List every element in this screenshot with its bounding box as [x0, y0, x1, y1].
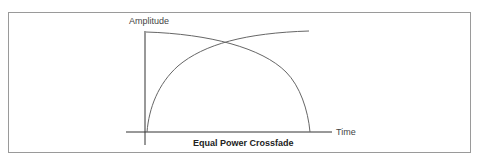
fade-out-curve	[146, 32, 310, 132]
fade-in-curve	[147, 31, 309, 132]
y-axis-label: Amplitude	[129, 16, 169, 26]
diagram-title: Equal Power Crossfade	[193, 138, 294, 148]
x-axis-label: Time	[336, 127, 356, 137]
